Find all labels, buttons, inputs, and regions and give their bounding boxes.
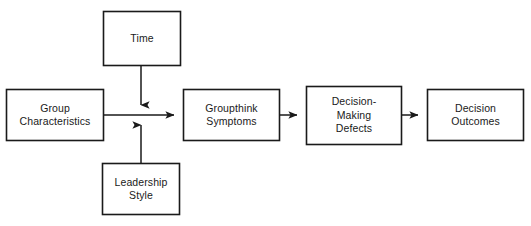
node-box-leadership-style[interactable]: [103, 164, 180, 215]
node-boxes: [7, 12, 524, 215]
node-box-time[interactable]: [104, 12, 181, 66]
node-box-group-characteristics[interactable]: [7, 90, 104, 141]
diagram-graphics: [0, 0, 531, 226]
diagram-canvas: Time Group Characteristics Groupthink Sy…: [0, 0, 531, 226]
node-box-groupthink-symptoms[interactable]: [184, 90, 280, 141]
node-box-decision-making-defects[interactable]: [307, 87, 402, 145]
node-box-decision-outcomes[interactable]: [428, 90, 524, 141]
